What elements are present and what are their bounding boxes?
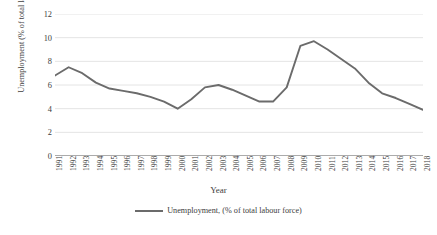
legend-line-swatch-icon [135,210,163,212]
x-axis-tick-label: 2013 [355,145,364,171]
x-axis-tick-label: 2018 [423,145,432,171]
x-axis-tick-label: 2012 [341,145,350,171]
series-canvas [55,14,423,156]
x-axis-tick-label: 1993 [82,145,91,171]
y-axis-tick-label: 0 [30,152,52,161]
y-axis-title: Unemployment (% of total labour force) [17,0,26,103]
y-axis-tick-label: 6 [30,81,52,90]
x-axis-tick-label: 1999 [164,145,173,171]
x-axis-tick-label: 2007 [273,145,282,171]
x-axis-tick-label: 2010 [314,145,323,171]
x-axis-tick-label: 2003 [219,145,228,171]
x-axis-tick-label: 1995 [110,145,119,171]
y-axis-tick-label: 12 [30,10,52,19]
x-axis-tick-label: 1997 [137,145,146,171]
y-axis-tick-label: 10 [30,33,52,42]
x-axis-tick-label: 2016 [396,145,405,171]
series-line-unemployment [55,41,423,110]
x-axis-tick-label: 2006 [259,145,268,171]
y-axis-tick-labels: 024681012 [30,14,52,156]
x-axis-tick-labels: 1991199219931994199519961997199819992000… [55,158,423,184]
y-axis-tick-label: 4 [30,104,52,113]
legend-entry-label: Unemployment, (% of total labour force) [167,206,302,215]
x-axis-tick-label: 2005 [246,145,255,171]
x-axis-tick-label: 2009 [300,145,309,171]
x-axis-tick-label: 1992 [69,145,78,171]
x-axis-tick-label: 2008 [287,145,296,171]
x-axis-tick-label: 2002 [205,145,214,171]
plot-area [55,14,423,156]
x-axis-tick-label: 2014 [368,145,377,171]
x-axis-tick-label: 2017 [409,145,418,171]
y-axis-tick-label: 8 [30,57,52,66]
x-axis-title: Year [0,185,437,195]
x-axis-tick-label: 2011 [328,145,337,171]
x-axis-tick-label: 2015 [382,145,391,171]
y-axis-tick-label: 2 [30,128,52,137]
x-axis-tick-label: 2000 [178,145,187,171]
x-axis-tick-label: 1998 [150,145,159,171]
x-axis-tick-label: 1996 [123,145,132,171]
chart-legend: Unemployment, (% of total labour force) [0,206,437,215]
x-axis-tick-label: 1991 [55,145,64,171]
x-axis-tick-label: 2001 [191,145,200,171]
x-axis-tick-label: 1994 [96,145,105,171]
x-axis-tick-label: 2004 [232,145,241,171]
unemployment-line-chart: Unemployment (% of total labour force) 0… [0,0,437,235]
